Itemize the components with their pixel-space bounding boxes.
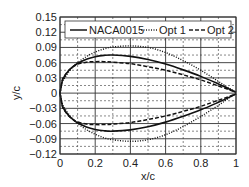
legend-label-opt1: Opt 1 (159, 24, 186, 36)
x-tick-label: 0.2 (88, 157, 103, 169)
y-tick-label: 0.12 (36, 26, 57, 38)
legend: NACA0015 Opt 1 Opt 2 (65, 21, 234, 38)
y-axis-label: y/c (10, 85, 22, 100)
x-tick-label: 0.4 (123, 157, 138, 169)
y-tick-label: −0.03 (29, 102, 57, 114)
x-tick-label: 0.8 (193, 157, 208, 169)
y-tick-label: −0.06 (29, 118, 57, 130)
legend-label-naca0015: NACA0015 (89, 24, 144, 36)
x-axis-ticks: 00.20.40.60.81 (57, 157, 239, 169)
x-tick-label: 1 (233, 157, 239, 169)
y-tick-label: −0.09 (29, 133, 57, 145)
x-tick-label: 0 (57, 157, 63, 169)
y-axis-ticks: 0.150.120.090.060.030−0.03−0.06−0.09−0.1… (29, 11, 57, 160)
x-axis-label: x/c (141, 170, 156, 182)
y-tick-label: −0.12 (29, 148, 57, 160)
y-tick-label: 0.03 (36, 72, 57, 84)
y-tick-label: 0.09 (36, 41, 57, 53)
legend-label-opt2: Opt 2 (207, 24, 234, 36)
airfoil-chart: 0.150.120.090.060.030−0.03−0.06−0.09−0.1… (0, 0, 249, 187)
x-tick-label: 0.6 (158, 157, 173, 169)
y-tick-label: 0.06 (36, 57, 57, 69)
y-tick-label: 0 (51, 87, 57, 99)
y-tick-label: 0.15 (36, 11, 57, 23)
